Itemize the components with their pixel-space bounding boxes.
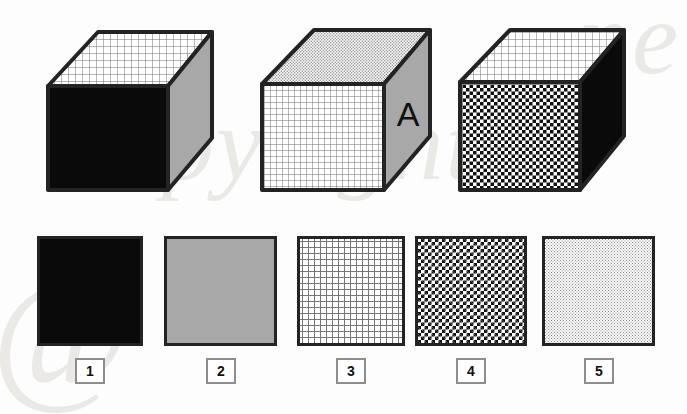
cube-2-face-letter: A <box>397 95 420 133</box>
puzzle-stage: @ opyright ne <box>0 0 687 414</box>
option-4-label[interactable]: 4 <box>456 358 486 384</box>
option-5-pattern-fill <box>542 236 655 346</box>
cube-2-front-face <box>262 84 384 190</box>
cube-3 <box>452 18 642 208</box>
option-3[interactable]: 3 <box>297 236 405 346</box>
option-3-swatch[interactable] <box>297 236 405 346</box>
option-3-label[interactable]: 3 <box>336 358 366 384</box>
option-5-swatch[interactable] <box>542 236 655 346</box>
option-4-swatch[interactable] <box>415 236 527 346</box>
option-2-pattern-fill <box>164 236 277 346</box>
cube-3-front-face <box>460 82 580 190</box>
option-2[interactable]: 2 <box>164 236 277 346</box>
option-3-pattern-fill <box>297 236 405 346</box>
option-2-label[interactable]: 2 <box>206 358 236 384</box>
option-1-pattern-fill <box>37 236 143 346</box>
option-2-swatch[interactable] <box>164 236 277 346</box>
option-4-pattern-fill <box>415 236 527 346</box>
option-5-label[interactable]: 5 <box>584 358 614 384</box>
option-4[interactable]: 4 <box>415 236 527 346</box>
option-1[interactable]: 1 <box>37 236 143 346</box>
cube-2: A <box>252 18 442 208</box>
cube-1-front-face <box>48 86 168 190</box>
option-5[interactable]: 5 <box>542 236 655 346</box>
cube-1 <box>40 18 220 208</box>
option-1-swatch[interactable] <box>37 236 143 346</box>
option-1-label[interactable]: 1 <box>75 358 105 384</box>
